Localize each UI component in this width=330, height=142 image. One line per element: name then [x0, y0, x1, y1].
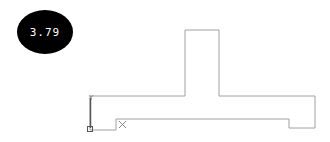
- y-axis-label: Y: [88, 94, 94, 102]
- drawing-canvas[interactable]: Y: [0, 0, 330, 142]
- shape-outline: [90, 30, 315, 130]
- cross-marker-icon: [119, 121, 126, 128]
